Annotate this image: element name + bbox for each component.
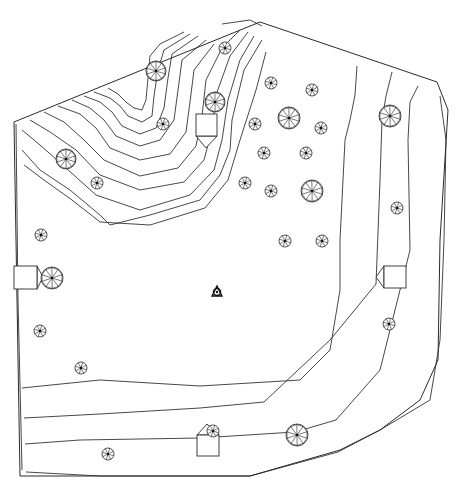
tree-icon (249, 118, 261, 130)
tree-icon (239, 177, 251, 189)
trees (34, 42, 403, 460)
contour-line (22, 36, 254, 210)
structure-right (376, 266, 406, 288)
structure-arrow-icon (196, 136, 217, 148)
tree-icon (286, 424, 308, 446)
tree-icon (207, 425, 219, 437)
tree-icon (35, 229, 47, 241)
tree-icon (157, 118, 169, 130)
tree-icon (258, 147, 270, 159)
structure-box (384, 266, 406, 288)
structure-top-center (196, 114, 217, 148)
tree-icon (41, 267, 63, 289)
contour-line (24, 52, 266, 225)
tree-icon (379, 105, 401, 127)
tree-icon (279, 235, 291, 247)
tree-icon (316, 235, 328, 247)
tree-icon (306, 84, 318, 96)
tree-icon (391, 202, 403, 214)
tree-icon (146, 61, 166, 81)
tree-icon (91, 177, 103, 189)
site-plan-svg (0, 0, 460, 484)
survey-marker-icon (212, 286, 222, 296)
structure-box (197, 435, 219, 456)
tree-icon (278, 107, 300, 129)
structure-left (14, 266, 43, 289)
site-plan-diagram (0, 0, 460, 484)
tree-icon (265, 77, 277, 89)
contour-line (84, 36, 198, 134)
structure-box (14, 266, 37, 289)
structure-arrow-icon (376, 266, 384, 288)
tree-icon (383, 318, 395, 330)
structure-box (196, 114, 217, 136)
tree-icon (102, 448, 114, 460)
tree-icon (315, 122, 327, 134)
contour-lines (16, 20, 446, 476)
tree-icon (205, 92, 225, 112)
tree-icon (300, 147, 312, 159)
tree-icon (265, 185, 277, 197)
contour-line (22, 66, 357, 388)
contour-line (222, 20, 262, 26)
tree-icon (75, 362, 87, 374)
tree-icon (219, 42, 231, 54)
tree-icon (34, 325, 46, 337)
contour-line (58, 44, 214, 160)
tree-icon (301, 180, 323, 202)
tree-icon (56, 149, 76, 169)
